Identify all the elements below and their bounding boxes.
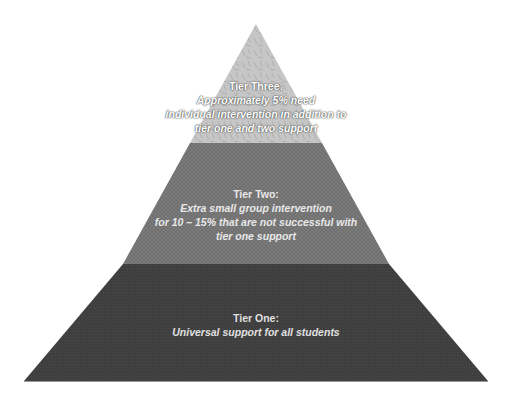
tier-three-description-line: Approximately 5% need (0, 93, 512, 107)
tier-three-description-line: tier one and two support (0, 121, 512, 135)
tier-three-title: Tier Three: (0, 79, 512, 93)
tier-three-description-line: individual intervention in addition to (0, 107, 512, 121)
tier-two-description-line: for 10 – 15% that are not successful wit… (0, 215, 512, 229)
tier-one-title: Tier One: (0, 311, 512, 325)
tier-two-description-line: tier one support (0, 229, 512, 243)
tier-two-description-line: Extra small group intervention (0, 201, 512, 215)
tier-two-label: Tier Two: Extra small group intervention… (0, 187, 512, 243)
tier-one-description-line: Universal support for all students (0, 325, 512, 339)
tier-two-title: Tier Two: (0, 187, 512, 201)
tier-three-label: Tier Three: Approximately 5% need indivi… (0, 79, 512, 135)
tier-one-label: Tier One: Universal support for all stud… (0, 311, 512, 339)
